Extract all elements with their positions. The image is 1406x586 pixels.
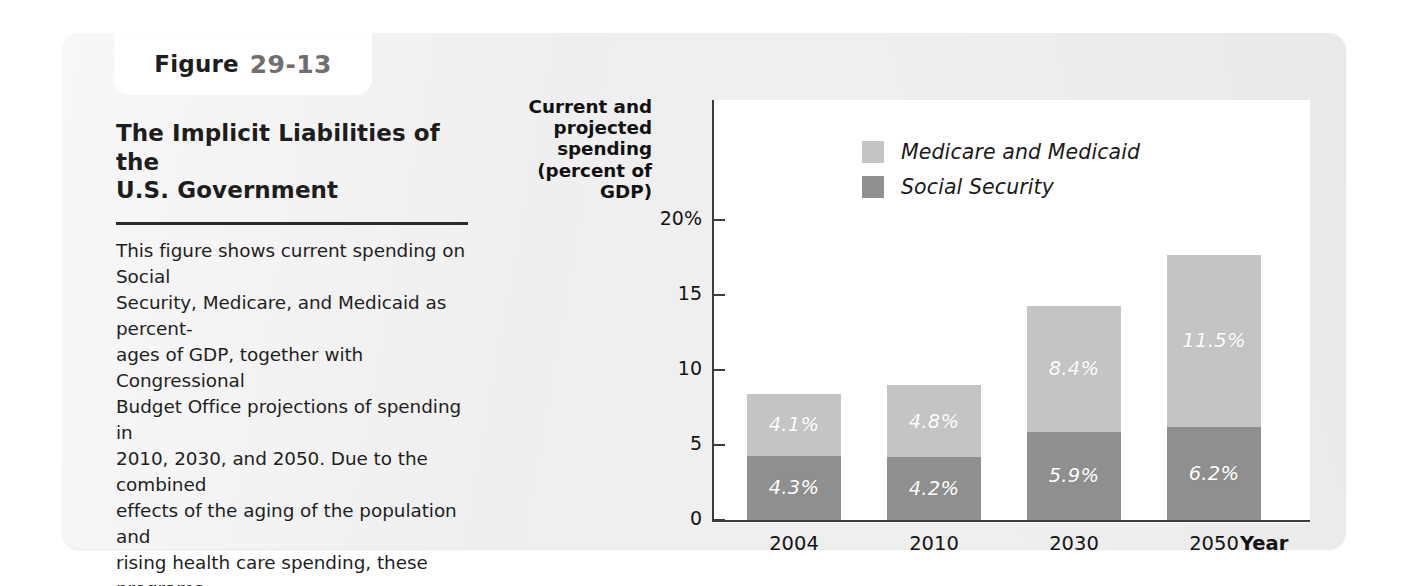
title-divider bbox=[116, 222, 468, 225]
bar-value-label: 5.9% bbox=[1049, 464, 1100, 487]
x-axis-title: Year bbox=[1240, 532, 1288, 555]
figure-title: The Implicit Liabilities of the U.S. Gov… bbox=[116, 119, 474, 205]
bar-group[interactable]: 4.8%4.2% bbox=[887, 385, 981, 520]
bar-group[interactable]: 4.1%4.3% bbox=[747, 394, 841, 520]
figure-number: 29-13 bbox=[250, 50, 332, 79]
y-axis-tick-label: 10 bbox=[636, 357, 702, 379]
bar-value-label: 11.5% bbox=[1182, 329, 1245, 352]
figure-caption-body: This figure shows current spending on So… bbox=[116, 238, 474, 586]
y-axis-tick-label: 15 bbox=[636, 282, 702, 304]
x-axis-tick-label: 2004 bbox=[734, 532, 854, 555]
bar-segment-social-security[interactable]: 6.2% bbox=[1167, 427, 1261, 520]
bar-group[interactable]: 8.4%5.9% bbox=[1027, 306, 1121, 521]
y-axis-tick bbox=[712, 219, 725, 221]
chart-legend: Medicare and MedicaidSocial Security bbox=[862, 140, 1140, 210]
bar-segment-social-security[interactable]: 5.9% bbox=[1027, 432, 1121, 521]
y-axis-tick-label: 20% bbox=[636, 207, 702, 229]
y-axis-tick-label: 0 bbox=[636, 507, 702, 529]
bar-value-label: 4.8% bbox=[909, 410, 960, 433]
bar-segment-social-security[interactable]: 4.2% bbox=[887, 457, 981, 520]
legend-label: Social Security bbox=[901, 175, 1054, 199]
bar-segment-social-security[interactable]: 4.3% bbox=[747, 456, 841, 521]
legend-color-swatch bbox=[862, 176, 884, 198]
bar-value-label: 4.3% bbox=[769, 476, 820, 499]
bar-value-label: 6.2% bbox=[1189, 462, 1240, 485]
figure-number-tab: Figure 29-13 bbox=[114, 33, 372, 95]
y-axis-tick bbox=[712, 444, 725, 446]
bar-value-label: 4.1% bbox=[769, 413, 820, 436]
y-axis-tick bbox=[712, 294, 725, 296]
legend-item[interactable]: Social Security bbox=[862, 175, 1140, 199]
legend-item[interactable]: Medicare and Medicaid bbox=[862, 140, 1140, 164]
bar-value-label: 4.2% bbox=[909, 477, 960, 500]
bar-segment-medicare-medicaid[interactable]: 8.4% bbox=[1027, 306, 1121, 432]
figure-label: Figure bbox=[154, 51, 239, 77]
legend-color-swatch bbox=[862, 141, 884, 163]
legend-label: Medicare and Medicaid bbox=[901, 140, 1140, 164]
x-axis-tick-label: 2030 bbox=[1014, 532, 1134, 555]
bar-value-label: 8.4% bbox=[1049, 357, 1100, 380]
y-axis-line bbox=[712, 100, 714, 522]
bar-segment-medicare-medicaid[interactable]: 11.5% bbox=[1167, 255, 1261, 428]
y-axis-tick-label: 5 bbox=[636, 432, 702, 454]
bar-group[interactable]: 11.5%6.2% bbox=[1167, 255, 1261, 521]
x-axis-tick-label: 2010 bbox=[874, 532, 994, 555]
x-axis-line bbox=[712, 520, 1310, 522]
bar-chart: 05101520% 4.1%4.3%4.8%4.2%8.4%5.9%11.5%6… bbox=[712, 100, 1310, 522]
y-axis-tick bbox=[712, 369, 725, 371]
figure-text-column: The Implicit Liabilities of the U.S. Gov… bbox=[116, 119, 474, 586]
bar-segment-medicare-medicaid[interactable]: 4.1% bbox=[747, 394, 841, 456]
y-axis-tick bbox=[712, 519, 725, 521]
y-axis-title: Current and projected spending (percent … bbox=[490, 96, 652, 202]
bar-segment-medicare-medicaid[interactable]: 4.8% bbox=[887, 385, 981, 457]
